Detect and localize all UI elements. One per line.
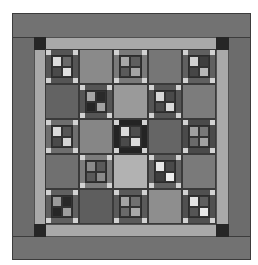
patch-square [52,196,62,207]
corner-stone [80,183,85,188]
corner-stone [73,190,78,195]
corner-stone [107,155,112,160]
four-patch-block [182,189,216,224]
plain-block [79,189,113,224]
patch-square [52,137,62,148]
four-patch-block [182,49,216,84]
four-patch-block [45,119,79,154]
patch-square [62,67,72,78]
corner-stone [149,183,154,188]
patch-square [52,207,62,218]
patch-square [155,172,165,183]
corner-stone [183,78,188,83]
patch-square [62,137,72,148]
plain-block [113,154,147,189]
corner-stone [107,113,112,118]
corner-stone [46,78,51,83]
four-patch-center [85,160,107,183]
corner-stone [210,218,215,223]
patch-square [155,91,165,102]
patch-square [86,102,96,113]
patch-square [189,67,199,78]
corner-stone [149,113,154,118]
patch-square [165,161,175,172]
patch-square [52,56,62,67]
patch-square [165,91,175,102]
corner-stone [114,148,119,153]
four-patch-block [45,189,79,224]
four-patch-block [79,154,113,189]
corner-square-bottom-right [216,224,229,237]
patch-square [199,56,209,67]
four-patch-block [113,49,147,84]
corner-stone [210,148,215,153]
four-patch-block [148,154,182,189]
patch-square [130,196,140,207]
corner-stone [176,183,181,188]
patch-square [96,161,106,172]
patch-square [86,172,96,183]
corner-square-bottom-left [34,224,46,237]
patch-square [62,56,72,67]
patch-square [130,207,140,218]
four-patch-block [182,119,216,154]
corner-stone [210,190,215,195]
corner-stone [142,190,147,195]
patch-square [130,137,140,148]
plain-block [113,84,147,119]
patch-square [199,207,209,218]
corner-stone [114,218,119,223]
patch-square [189,196,199,207]
corner-stone [183,148,188,153]
plain-block [148,49,182,84]
patch-square [120,137,130,148]
patch-square [155,102,165,113]
patch-square [120,67,130,78]
four-patch-center [51,195,73,218]
patch-square [199,67,209,78]
patch-square [62,126,72,137]
corner-square-top-right [216,37,229,50]
corner-stone [73,148,78,153]
four-patch-center [119,195,141,218]
four-patch-center [119,125,141,148]
four-patch-center [51,55,73,78]
four-patch-center [154,160,176,183]
patch-square [62,207,72,218]
corner-stone [176,85,181,90]
patch-square [189,207,199,218]
four-patch-block [113,119,147,154]
patch-square [52,126,62,137]
quilt-right-border [228,37,251,237]
four-patch-block [148,84,182,119]
corner-stone [107,85,112,90]
patch-square [52,67,62,78]
plain-block [79,119,113,154]
patch-square [199,137,209,148]
corner-stone [114,78,119,83]
plain-block [148,119,182,154]
patch-square [96,102,106,113]
plain-block [182,84,216,119]
patch-square [86,91,96,102]
inner-sashing-bottom [45,224,217,237]
four-patch-center [188,55,210,78]
patch-square [120,126,130,137]
patch-square [120,207,130,218]
corner-stone [46,148,51,153]
corner-stone [142,50,147,55]
corner-stone [142,120,147,125]
quilt-top-border-seam [12,13,251,38]
quilt-left-border [12,37,35,237]
patch-square [165,172,175,183]
inner-sashing-right [216,49,229,225]
four-patch-center [51,125,73,148]
four-patch-center [119,55,141,78]
patch-square [189,126,199,137]
patch-square [165,102,175,113]
patch-square [199,196,209,207]
four-patch-block [113,189,147,224]
patch-square [199,126,209,137]
four-patch-center [188,195,210,218]
corner-stone [142,148,147,153]
